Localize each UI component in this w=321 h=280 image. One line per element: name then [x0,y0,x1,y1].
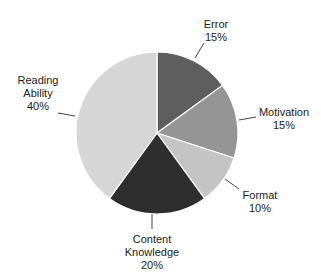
label-format-pct: 10% [238,202,282,215]
leader-error [195,43,204,58]
leader-format [225,179,239,189]
label-error-pct: 15% [194,31,238,44]
label-reading-pct: 40% [16,100,60,113]
label-motivation-pct: 15% [254,119,314,132]
label-format-name: Format [238,189,282,202]
label-reading-name2: Ability [16,87,60,100]
label-motivation: Motivation 15% [254,106,314,132]
label-content-knowledge: Content Knowledge 20% [120,233,184,272]
label-content-name1: Content [120,233,184,246]
pie-slices [76,52,238,214]
leader-reading [58,113,75,116]
label-reading-ability: Reading Ability 40% [16,74,60,113]
label-content-name2: Knowledge [120,246,184,259]
label-reading-name1: Reading [16,74,60,87]
label-error-name: Error [194,18,238,31]
label-content-pct: 20% [120,259,184,272]
label-motivation-name: Motivation [254,106,314,119]
label-format: Format 10% [238,189,282,215]
label-error: Error 15% [194,18,238,44]
